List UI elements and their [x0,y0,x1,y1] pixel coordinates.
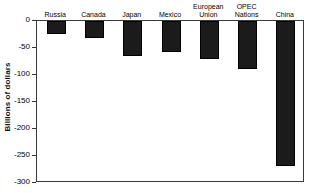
y-axis-tick-label: -250 [14,150,32,160]
category-label: OPEC Nations [227,3,265,19]
bar [123,21,142,56]
bar [162,21,181,52]
category-label: China [266,11,304,19]
y-axis-tick: 0 [26,15,36,25]
category-axis-labels: RussiaCanadaJapanMexicoEuropean UnionOPE… [36,0,304,20]
y-axis-tick: -100 [14,69,36,79]
y-axis-tick-label: -150 [14,96,32,106]
y-axis: 0-50-100-150-200-250-300 [14,0,36,193]
y-axis-tick: -300 [14,177,36,187]
y-axis-tick-label: -200 [14,123,32,133]
bar-chart: Billions of dollars 0-50-100-150-200-250… [0,0,312,193]
category-label: Mexico [151,11,189,19]
bar [200,21,219,59]
category-label: European Union [189,3,227,19]
category-label: Russia [36,11,74,19]
y-axis-title: Billions of dollars [0,0,14,193]
bar [238,21,257,69]
y-axis-tick: -250 [14,150,36,160]
y-axis-tick-label: -300 [14,177,32,187]
bar [85,21,104,38]
y-axis-title-label: Billions of dollars [3,62,12,131]
y-axis-tick-label: -100 [14,69,32,79]
y-axis-tick: -150 [14,96,36,106]
plot-area [36,20,304,182]
y-axis-tick-label: -50 [18,42,32,52]
category-label: Canada [74,11,112,19]
category-label: Japan [113,11,151,19]
y-axis-tick: -50 [18,42,36,52]
bar [47,21,66,34]
y-axis-tick: -200 [14,123,36,133]
bar [276,21,295,166]
